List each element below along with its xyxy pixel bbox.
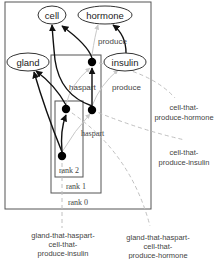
node-dot-mid-right bbox=[88, 106, 96, 114]
node-gland: gland bbox=[7, 53, 49, 71]
annotation-cell-produce-insulin: cell-that- produce-insulin bbox=[159, 148, 210, 167]
annotation-line: produce-hormone bbox=[154, 113, 213, 122]
rank-0-label: rank 0 bbox=[68, 198, 88, 207]
annotation-cell-produce-hormone: cell-that- produce-hormone bbox=[154, 103, 213, 122]
annotation-line: produce-insulin bbox=[38, 249, 89, 258]
edge-dot-to-cell-b bbox=[52, 25, 92, 106]
node-cell-label: cell bbox=[45, 10, 59, 21]
rank-2-label: rank 2 bbox=[59, 166, 79, 175]
edge-label-produce-mid: produce bbox=[112, 83, 141, 92]
rank-0-box bbox=[5, 2, 151, 209]
edge-dot-to-gland-b bbox=[34, 72, 62, 152]
annotation-line: gland-that-haspart- bbox=[126, 233, 190, 242]
node-dot-mid-left bbox=[62, 105, 70, 113]
node-insulin: insulin bbox=[104, 53, 146, 71]
edge-label-haspart-low: haspart bbox=[81, 129, 105, 138]
rank-1-label: rank 1 bbox=[66, 182, 86, 191]
annotation-line: cell-that- bbox=[144, 242, 173, 251]
node-hormone: hormone bbox=[78, 6, 132, 24]
node-dot-upper-right bbox=[88, 58, 96, 66]
annotation-gland-insulin: gland-that-haspart- cell-that- produce-i… bbox=[31, 231, 95, 258]
annotation-line: cell-that- bbox=[49, 240, 78, 249]
annotation-line: gland-that-haspart- bbox=[31, 231, 95, 240]
edge-label-haspart-mid: haspart bbox=[69, 83, 96, 92]
annotation-line: produce-hormone bbox=[128, 251, 187, 259]
node-cell: cell bbox=[38, 6, 66, 24]
concept-diagram: cell hormone gland insulin produce haspa… bbox=[0, 0, 218, 259]
edge-dot-to-cell-a bbox=[62, 26, 92, 58]
annotation-gland-hormone: gland-that-haspart- cell-that- produce-h… bbox=[126, 233, 190, 259]
node-hormone-label: hormone bbox=[86, 10, 124, 21]
edge-label-produce-top: produce bbox=[98, 37, 127, 46]
annotation-line: cell-that- bbox=[170, 148, 199, 157]
node-dot-bottom bbox=[58, 152, 66, 160]
node-gland-label: gland bbox=[16, 57, 39, 68]
annotation-line: produce-insulin bbox=[159, 158, 210, 167]
annotation-line: cell-that- bbox=[170, 103, 199, 112]
node-insulin-label: insulin bbox=[112, 57, 139, 68]
